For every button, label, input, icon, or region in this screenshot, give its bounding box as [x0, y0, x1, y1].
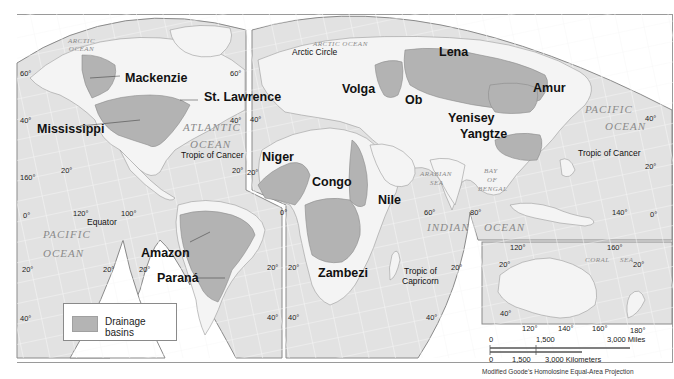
coord-label: 100°: [121, 209, 137, 218]
coord-label: 20°: [267, 263, 278, 272]
coord-label: 20°: [451, 263, 462, 272]
coord-label: 160°: [20, 173, 36, 182]
basin-label-volga: Volga: [342, 82, 375, 96]
basin-label-yangtze: Yangtze: [460, 127, 507, 141]
coord-label: 60°: [20, 69, 31, 78]
basin-label-amur: Amur: [533, 81, 566, 95]
ocean-label-arabian-sea-2: SEA: [430, 179, 444, 187]
ocean-label-pacific-east-2: OCEAN: [605, 120, 646, 132]
scale-km: 0 1,500 3,000 Kilometers: [482, 355, 672, 365]
ocean-label-indian-2: OCEAN: [484, 221, 525, 233]
basin-label-yenisey: Yenisey: [448, 111, 495, 125]
coord-label: 20°: [139, 265, 150, 274]
basin-label-mackenzie: Mackenzie: [125, 71, 188, 85]
arctic-circle-label: Arctic Circle: [292, 47, 337, 57]
legend: Drainage basins: [63, 303, 177, 341]
coord-label: 40°: [267, 313, 278, 322]
coord-label: 40°: [288, 313, 299, 322]
coord-label: 120°: [522, 324, 538, 333]
tropic-capricorn-line1: Tropic of: [402, 266, 439, 276]
coord-label: 140°: [612, 208, 628, 217]
ocean-label-arabian-sea: ARABIAN: [420, 170, 452, 178]
coord-label: 140°: [558, 324, 574, 333]
tropic-capricorn-line2: Capricorn: [402, 276, 439, 286]
coord-label: 40°: [230, 116, 241, 125]
scale-km-zero: 0: [489, 355, 493, 364]
basin-label-parana: Paraná: [157, 271, 199, 285]
coord-label: 20°: [288, 263, 299, 272]
scale-miles-mid: 1,500: [536, 335, 555, 344]
ocean-label-coral-sea-2: SEA: [620, 256, 634, 264]
coord-label: 0°: [650, 210, 657, 219]
equator-label: Equator: [87, 217, 117, 227]
scale-miles-zero: 0: [489, 335, 493, 344]
coord-label: 60°: [230, 69, 241, 78]
ocean-label-coral-sea: CORAL: [585, 256, 610, 264]
coord-label: 80°: [470, 208, 481, 217]
coord-label: 120°: [510, 243, 526, 252]
basin-label-congo: Congo: [312, 175, 352, 189]
coord-label: 60°: [424, 208, 435, 217]
ocean-label-indian: INDIAN: [427, 221, 470, 233]
coord-label: 20°: [499, 260, 510, 269]
coord-label: 40°: [20, 116, 31, 125]
ocean-label-pacific-west-2: OCEAN: [43, 247, 84, 259]
coord-label: 160°: [592, 324, 608, 333]
coord-label: 20°: [61, 166, 72, 175]
ocean-label-pacific-west: PACIFIC: [43, 228, 91, 240]
tropic-of-cancer-west-label: Tropic of Cancer: [181, 150, 244, 160]
legend-swatch-drainage-basin: [72, 316, 98, 332]
scale-bar-graphic: [482, 345, 672, 355]
projection-label: Modified Goode's Homolosine Equal-Area P…: [482, 368, 634, 375]
coord-label: 40°: [500, 309, 511, 318]
coord-label: 180°: [630, 326, 646, 335]
coord-label: 160°: [607, 243, 623, 252]
coord-label: 20°: [103, 265, 114, 274]
scale-miles: 0 1,500 3,000 Miles: [482, 335, 672, 345]
basin-label-mississippi: Mississippi: [37, 122, 104, 136]
scale-km-mid: 1,500: [512, 355, 531, 364]
coord-label: 20°: [633, 260, 644, 269]
basin-label-niger: Niger: [262, 150, 294, 164]
ocean-label-atlantic-2: OCEAN: [190, 138, 231, 150]
basin-label-lena: Lena: [439, 45, 468, 59]
legend-label: Drainage basins: [105, 316, 176, 338]
coord-label: 120°: [73, 209, 89, 218]
coord-label: 0°: [23, 211, 30, 220]
tropic-of-cancer-east-label: Tropic of Cancer: [578, 148, 641, 158]
basin-label-nile: Nile: [378, 193, 401, 207]
basin-label-ob: Ob: [405, 93, 422, 107]
ocean-label-arctic-west: ARCTIC OCEAN: [68, 37, 95, 53]
coord-label: 40°: [645, 114, 656, 123]
scale-miles-end: 3,000 Miles: [607, 335, 645, 344]
st-lawrence-text: St. Lawrence: [204, 90, 281, 104]
basin-label-amazon: Amazon: [141, 246, 190, 260]
ocean-label-pacific-east: PACIFIC: [585, 103, 633, 115]
scale-bar: 0 1,500 3,000 Miles 0 1,500 3,000 Kilome…: [482, 335, 672, 365]
coord-label: 20°: [22, 265, 33, 274]
coord-label: 40°: [20, 314, 31, 323]
coord-label: 20°: [645, 162, 656, 171]
scale-km-end: 3,000 Kilometers: [545, 355, 601, 364]
coord-label: 40°: [250, 115, 261, 124]
coord-label: 40°: [426, 313, 437, 322]
tropic-of-capricorn-label: Tropic ofCapricorn: [402, 266, 439, 286]
ocean-label-bay-of-bengal: BAY: [484, 167, 498, 175]
coord-label: 20°: [232, 166, 243, 175]
ocean-label-bay-of-bengal-2: OF: [487, 176, 497, 184]
basin-label-st-lawrence: St. Lawrence: [204, 90, 258, 104]
basin-label-zambezi: Zambezi: [318, 266, 368, 280]
ocean-label-bay-of-bengal-3: BENGAL: [478, 185, 507, 193]
coord-label: 20°: [247, 168, 258, 177]
coord-label: 0°: [280, 208, 287, 217]
